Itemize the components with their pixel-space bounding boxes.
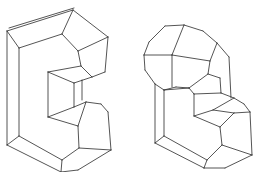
edge-line	[165, 25, 184, 26]
edge-line	[144, 42, 149, 55]
edge-line	[244, 104, 250, 112]
edge-line	[225, 155, 252, 168]
edge-line	[101, 104, 108, 112]
c-shaped-polyhedron	[7, 8, 111, 172]
edge-line	[105, 37, 108, 72]
edge-line	[221, 93, 234, 98]
edge-line	[7, 10, 73, 31]
edge-line	[78, 51, 81, 66]
edge-line	[194, 110, 213, 116]
edge-line	[204, 160, 207, 168]
edge-line	[145, 70, 155, 84]
edge-line	[61, 170, 78, 172]
edge-line	[172, 25, 184, 55]
edge-line	[92, 72, 105, 77]
edge-line	[155, 84, 164, 90]
edge-line	[229, 57, 231, 98]
edge-line	[48, 72, 74, 83]
edge-line	[234, 98, 244, 104]
domed-l-shaped-polyhedron	[144, 25, 252, 168]
edge-line	[79, 148, 111, 150]
polyhedra-figure	[0, 0, 256, 172]
edge-line	[220, 113, 234, 127]
line-drawing-canvas	[0, 0, 256, 172]
edge-line	[250, 112, 252, 155]
edge-line	[208, 61, 210, 74]
edge-line	[203, 31, 217, 43]
edge-line	[7, 136, 19, 145]
edge-line	[189, 88, 194, 94]
edge-line	[48, 117, 78, 126]
edge-line	[172, 55, 210, 61]
edge-line	[62, 148, 79, 160]
edge-line	[48, 66, 81, 72]
edge-line	[7, 145, 61, 172]
edge-line	[144, 55, 145, 70]
edge-line	[213, 110, 234, 113]
edge-line	[62, 34, 78, 51]
edge-line	[220, 78, 221, 93]
edge-line	[184, 25, 203, 31]
edge-line	[86, 102, 101, 104]
edge-line	[78, 126, 79, 148]
edge-line	[194, 116, 220, 127]
edge-line	[7, 31, 19, 48]
edge-line	[74, 77, 92, 83]
edge-line	[78, 150, 111, 170]
edge-line	[61, 160, 62, 172]
edge-line	[78, 102, 86, 126]
edge-line	[194, 93, 221, 94]
edge-line	[234, 112, 250, 113]
edge-line	[81, 66, 92, 77]
edge-line	[222, 145, 252, 155]
edge-line	[108, 112, 111, 150]
edge-line	[155, 143, 204, 168]
edge-line	[217, 43, 229, 57]
edge-line	[19, 136, 62, 160]
edge-line	[73, 10, 108, 37]
edge-line	[149, 26, 165, 42]
edge-line	[213, 98, 234, 110]
edge-line	[155, 136, 164, 143]
edge-line	[48, 107, 74, 117]
edge-line	[62, 10, 73, 34]
edge-line	[220, 127, 222, 145]
edge-line	[78, 37, 108, 51]
edge-line	[189, 74, 208, 88]
edge-line	[164, 136, 207, 160]
edge-line	[207, 145, 222, 160]
edge-line	[19, 34, 62, 48]
edge-line	[9, 8, 74, 28]
edge-line	[208, 74, 220, 78]
edge-line	[210, 43, 217, 61]
